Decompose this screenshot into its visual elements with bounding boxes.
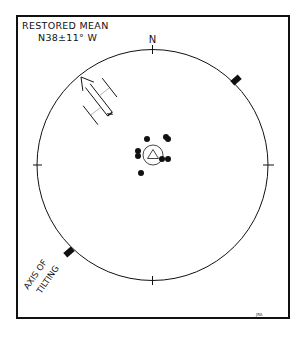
data-point — [135, 153, 141, 159]
axis-marker-ne-icon — [230, 74, 241, 85]
axis-marker-sw-icon — [63, 246, 74, 257]
axis-of-tilting-label: AXIS OF TILTING — [21, 256, 60, 299]
data-points — [135, 134, 171, 176]
confidence-circle — [143, 145, 163, 165]
data-point — [165, 136, 171, 142]
data-point — [144, 136, 150, 142]
north-label: N — [149, 34, 156, 45]
stereonet: N AXIS OF TILTING — [0, 0, 305, 339]
mean-triangle-icon — [148, 150, 159, 159]
data-point — [159, 156, 165, 162]
draftsman-credit: JRA — [256, 312, 263, 317]
data-point — [165, 156, 171, 162]
data-point — [138, 170, 144, 176]
restored-mean-arrow-icon — [68, 67, 123, 125]
